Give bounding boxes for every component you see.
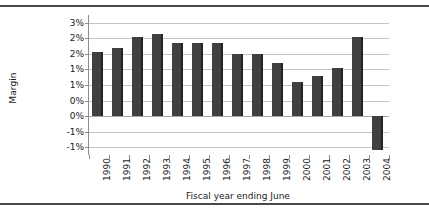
bar-series (89, 15, 389, 155)
y-axis-title: Margin (8, 53, 18, 123)
bar-slot (169, 15, 189, 155)
bar-slot (329, 15, 349, 155)
x-axis-title: Fiscal year ending June (88, 191, 388, 201)
bar[interactable] (192, 43, 203, 116)
bar-slot (189, 15, 209, 155)
bar-slot (289, 15, 309, 155)
bar-slot (149, 15, 169, 155)
y-tick-label: 2% (70, 49, 84, 59)
y-tick-label: 3% (70, 18, 84, 28)
bar[interactable] (112, 48, 123, 116)
bar[interactable] (352, 37, 363, 116)
bar-slot (309, 15, 329, 155)
bar[interactable] (212, 43, 223, 116)
y-axis-tick-labels: 3%2%2%1%1%0%0%-1%-1% (56, 8, 84, 202)
page-rule-top (0, 5, 429, 7)
y-tick-label: 1% (70, 80, 84, 90)
bar[interactable] (252, 54, 263, 116)
bar-slot (209, 15, 229, 155)
y-tick-label: 0% (70, 96, 84, 106)
bar[interactable] (92, 52, 103, 116)
y-tick-label: -1% (66, 127, 84, 137)
bar[interactable] (232, 54, 243, 116)
y-tick-label: 0% (70, 111, 84, 121)
chart-figure: Margin 3%2%2%1%1%0%0%-1%-1% 199019911992… (0, 0, 429, 214)
plot-area (88, 15, 388, 155)
bar-slot (249, 15, 269, 155)
bar[interactable] (152, 34, 163, 116)
y-tick-label: 1% (70, 64, 84, 74)
bar[interactable] (332, 68, 343, 116)
bar-slot (89, 15, 109, 155)
bar-slot (229, 15, 249, 155)
bar-slot (269, 15, 289, 155)
bar[interactable] (172, 43, 183, 116)
bar-chart: Margin 3%2%2%1%1%0%0%-1%-1% 199019911992… (0, 8, 429, 202)
bar-slot (349, 15, 369, 155)
bar-slot (369, 15, 389, 155)
bar[interactable] (312, 76, 323, 116)
bar[interactable] (272, 63, 283, 116)
y-tick-label: 2% (70, 33, 84, 43)
y-tick-label: -1% (66, 142, 84, 152)
page-rule-bottom (0, 203, 429, 205)
bar-slot (109, 15, 129, 155)
bar[interactable] (372, 116, 383, 150)
bar-slot (129, 15, 149, 155)
bar[interactable] (292, 82, 303, 116)
bar[interactable] (132, 37, 143, 116)
